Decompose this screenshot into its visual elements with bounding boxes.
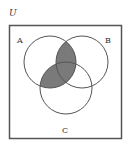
set-a-label: A <box>16 36 23 45</box>
shaded-region <box>40 36 108 114</box>
universe-label: U <box>9 8 17 18</box>
venn-diagram: U A B C <box>0 0 130 146</box>
set-b-label: B <box>105 36 111 45</box>
set-c-label: C <box>62 126 68 135</box>
